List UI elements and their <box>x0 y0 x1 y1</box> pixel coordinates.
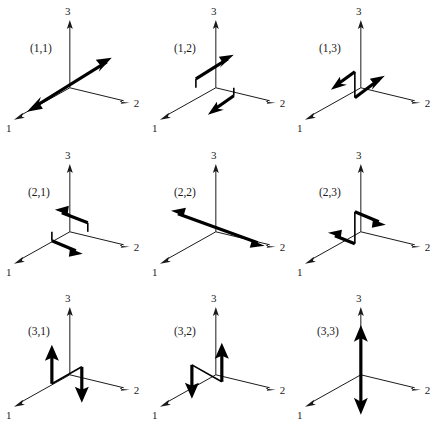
vector-shaft <box>178 213 258 242</box>
axis-1-label: 1 <box>152 409 157 421</box>
axis-1-line <box>166 88 216 116</box>
axis-1-label: 1 <box>152 265 157 277</box>
panel-1-2: 3 2 1 (1,2) <box>146 0 292 144</box>
vector-shaft-upper <box>355 212 379 222</box>
axis-2-label: 2 <box>425 97 430 109</box>
axes-1-3 <box>305 20 421 120</box>
axis-1-label: 1 <box>297 409 302 421</box>
axis-2-line <box>70 231 124 244</box>
vector-pair-3-2 <box>185 343 229 399</box>
vector-arrowhead-upper-left <box>171 208 190 219</box>
axis-1-line <box>311 88 361 116</box>
axis-3-label: 3 <box>211 5 217 17</box>
axis-1-line <box>166 231 216 259</box>
panel-grid: 3 2 1 (1,1) <box>0 0 437 431</box>
vector-pair-2-2 <box>171 208 265 248</box>
vector-arrowhead-lower-right <box>367 216 386 227</box>
panel-3-2: 3 2 1 (3,2) <box>146 287 292 431</box>
vector-pair-2-3 <box>328 212 386 244</box>
vector-pair-1-2 <box>196 55 234 115</box>
axis-2-line <box>361 88 415 101</box>
panel-label: (1,2) <box>174 42 196 55</box>
vector-pair-3-3 <box>354 325 368 415</box>
axis-2-line <box>70 88 124 101</box>
axes-3-3 <box>305 307 421 407</box>
panel-label: (1,1) <box>30 42 52 55</box>
axis-3-label: 3 <box>356 149 362 161</box>
panel-1-1: 3 2 1 (1,1) <box>0 0 146 144</box>
axis-1-label: 1 <box>6 265 11 277</box>
axis-2-line <box>215 88 269 101</box>
vector-pair-3-1 <box>45 345 89 403</box>
axis-3-label: 3 <box>211 292 217 304</box>
panel-label: (1,3) <box>319 42 341 55</box>
axis-1-line <box>311 375 361 403</box>
vector-arrowhead-upper-right <box>370 76 385 90</box>
panel-2-1: 3 2 1 (2,1) <box>0 144 146 288</box>
axes-1-2 <box>160 20 276 120</box>
axis-2-line <box>215 375 269 388</box>
axis-2-line <box>70 375 124 388</box>
axis-1-label: 1 <box>152 122 157 134</box>
axis-3-label: 3 <box>211 149 217 161</box>
panel-label: (3,1) <box>28 325 50 338</box>
axis-2-line <box>361 231 415 244</box>
panel-label: (2,3) <box>319 186 341 199</box>
axis-2-label: 2 <box>134 97 139 109</box>
axis-2-line <box>361 375 415 388</box>
vector-figure: 3 2 1 (1,1) <box>0 0 437 431</box>
panel-3-3: 3 2 1 (3,3) <box>291 287 437 431</box>
axis-2-label: 2 <box>134 384 139 396</box>
panel-label: (3,3) <box>317 325 339 338</box>
axis-3-label: 3 <box>356 5 362 17</box>
panel-label: (2,2) <box>174 186 196 199</box>
axis-2-label: 2 <box>425 384 430 396</box>
axes-2-2 <box>160 164 276 264</box>
axis-3-label: 3 <box>356 292 362 304</box>
vector-arrowhead-upper-right <box>96 58 112 72</box>
panel-label: (2,1) <box>28 186 50 199</box>
axis-1-label: 1 <box>6 409 11 421</box>
axis-3-label: 3 <box>65 5 71 17</box>
axis-1-line <box>20 375 70 403</box>
axes-3-1 <box>14 307 130 407</box>
panel-3-1: 3 2 1 (3,1) <box>0 287 146 431</box>
vector-shaft-upper <box>62 212 88 222</box>
axis-1-label: 1 <box>297 265 302 277</box>
axis-1-label: 1 <box>6 122 11 134</box>
axis-2-label: 2 <box>134 240 139 252</box>
vector-pair-1-3 <box>331 72 385 98</box>
vector-connector <box>192 365 222 382</box>
axis-2-label: 2 <box>279 384 284 396</box>
axis-1-label: 1 <box>297 122 302 134</box>
vector-connector <box>52 367 82 384</box>
axis-3-label: 3 <box>65 149 71 161</box>
axis-3-label: 3 <box>65 292 71 304</box>
panel-2-2: 3 2 1 (2,2) <box>146 144 292 288</box>
panel-label: (3,2) <box>174 325 196 338</box>
axes-1-1 <box>14 20 130 120</box>
axis-2-label: 2 <box>425 240 430 252</box>
axis-2-label: 2 <box>279 240 284 252</box>
vector-shaft-lower <box>52 240 76 250</box>
panel-2-3: 3 2 1 (2,3) <box>291 144 437 288</box>
vector-arrowhead-lower-right <box>64 245 83 256</box>
panel-1-3: 3 2 1 (1,3) <box>291 0 437 144</box>
axis-2-label: 2 <box>279 97 284 109</box>
